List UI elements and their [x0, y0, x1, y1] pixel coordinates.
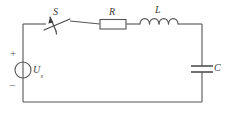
switch-symbol[interactable] — [44, 17, 70, 34]
inductor-arc-1 — [140, 19, 150, 24]
circuit-schematic-canvas — [0, 0, 225, 118]
capacitor-label: C — [214, 63, 221, 73]
circuit-diagram: S R L C Us + − — [0, 0, 225, 118]
resistor-body — [100, 20, 126, 30]
voltage-source-label-subscript: s — [41, 72, 44, 79]
inductor-arc-2 — [150, 19, 160, 24]
voltage-source-symbol — [15, 62, 31, 78]
switch-label: S — [53, 7, 58, 17]
inductor-arc-4 — [169, 19, 179, 24]
polarity-minus-sign: − — [9, 80, 15, 91]
inductor-coil — [140, 19, 178, 24]
inductor-label: L — [155, 5, 161, 15]
inductor-arc-3 — [159, 19, 169, 24]
capacitor-symbol — [191, 66, 213, 72]
switch-actuator-tail — [56, 31, 57, 34]
polarity-plus-sign: + — [10, 48, 16, 59]
wire-switch-to-resistor — [70, 21, 100, 24]
voltage-source-label-symbol: U — [33, 64, 40, 75]
switch-blade[interactable] — [44, 19, 70, 30]
voltage-source-label: Us — [33, 65, 43, 78]
resistor-label: R — [109, 7, 115, 17]
